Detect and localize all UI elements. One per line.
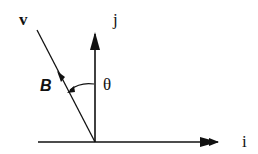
- b-label: B: [40, 78, 52, 94]
- j-label: j: [113, 11, 118, 28]
- theta-label: θ: [103, 76, 111, 93]
- v-label: v: [19, 11, 28, 28]
- i-label: i: [242, 133, 247, 150]
- vector-diagram: [0, 0, 258, 154]
